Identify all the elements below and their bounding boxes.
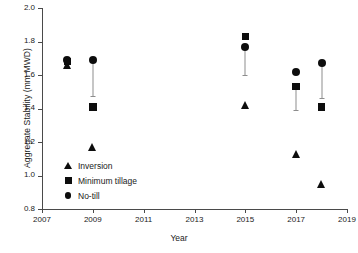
data-point-square — [89, 103, 97, 111]
data-point-square — [318, 103, 326, 111]
error-bar-cap — [294, 110, 299, 111]
chart-legend: InversionMinimum tillageNo-till — [62, 158, 137, 203]
aggregate-stability-scatter-chart: Aggregate Stability (mm MWD) Year 0.81.0… — [0, 0, 358, 253]
circle-icon — [65, 192, 72, 199]
x-tick-label: 2007 — [22, 215, 62, 224]
x-tick-label: 2013 — [175, 215, 215, 224]
y-tick-label: 1.6 — [24, 70, 35, 79]
y-tick: 1.6 — [38, 75, 42, 76]
legend-marker-circle-icon — [62, 192, 74, 199]
legend-marker-square-icon — [62, 177, 74, 184]
data-point-triangle — [317, 180, 325, 188]
x-tick-label: 2009 — [73, 215, 113, 224]
y-tick-label: 0.8 — [24, 204, 35, 213]
triangle-icon — [64, 162, 72, 169]
y-tick: 2.0 — [38, 8, 42, 9]
y-tick-label: 1.0 — [24, 170, 35, 179]
x-tick — [296, 209, 297, 213]
y-tick-label: 2.0 — [24, 3, 35, 12]
x-tick — [144, 209, 145, 213]
data-point-circle — [241, 43, 249, 51]
x-tick — [42, 209, 43, 213]
y-tick-label: 1.8 — [24, 36, 35, 45]
x-tick — [347, 209, 348, 213]
error-bar — [245, 47, 246, 75]
y-tick: 1.8 — [38, 42, 42, 43]
legend-marker-triangle-icon — [62, 162, 74, 169]
legend-label: No-till — [78, 191, 100, 201]
error-bar-cap — [90, 96, 95, 97]
data-point-circle — [89, 56, 97, 64]
y-tick-label: 1.2 — [24, 137, 35, 146]
data-point-square — [242, 33, 250, 41]
x-tick-label: 2015 — [225, 215, 265, 224]
error-bar — [321, 63, 322, 97]
error-bar-cap — [319, 98, 324, 99]
x-tick-label: 2017 — [276, 215, 316, 224]
legend-item-minimum-tillage: Minimum tillage — [62, 173, 137, 188]
data-point-circle — [292, 68, 300, 76]
x-tick-label: 2019 — [327, 215, 358, 224]
data-point-triangle — [88, 143, 96, 151]
x-tick — [245, 209, 246, 213]
square-icon — [65, 177, 72, 184]
legend-label: Inversion — [78, 161, 113, 171]
data-point-triangle — [241, 101, 249, 109]
x-tick-label: 2011 — [124, 215, 164, 224]
error-bar — [92, 60, 93, 96]
y-tick: 1.0 — [38, 176, 42, 177]
x-tick — [195, 209, 196, 213]
data-point-square — [292, 83, 300, 91]
y-axis-line — [42, 8, 43, 209]
y-tick-label: 1.4 — [24, 103, 35, 112]
y-tick: 1.2 — [38, 142, 42, 143]
x-tick — [93, 209, 94, 213]
y-tick: 1.4 — [38, 109, 42, 110]
x-axis-title: Year — [0, 233, 358, 243]
legend-label: Minimum tillage — [78, 176, 137, 186]
error-bar-cap — [243, 75, 248, 76]
legend-item-no-till: No-till — [62, 188, 137, 203]
data-point-circle — [318, 59, 326, 67]
data-point-triangle — [292, 150, 300, 158]
legend-item-inversion: Inversion — [62, 158, 137, 173]
